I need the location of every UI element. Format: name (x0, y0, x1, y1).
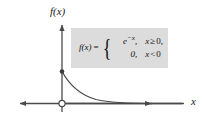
curve-start-filled-dot (60, 69, 65, 74)
piecewise-exponential-figure: f(x) x f(x) = { e−x, x≥0, 0, x<0 (0, 0, 205, 130)
formula-function-name: f(x) (79, 43, 92, 53)
formula-cases: e−x, x≥0, 0, x<0 (115, 37, 163, 60)
case-1-condition: x≥0, (145, 37, 163, 47)
origin-open-circle (59, 100, 65, 106)
x-axis-label: x (191, 96, 196, 107)
formula-case-2: 0, x<0 (115, 50, 163, 60)
formula-equals-sign: = (94, 43, 99, 53)
case-2-value: 0, (115, 50, 137, 60)
case-2-condition: x<0 (145, 50, 161, 60)
exponential-decay-curve (62, 72, 152, 104)
left-curly-brace-icon: { (103, 37, 112, 59)
y-axis-label: f(x) (50, 6, 65, 17)
case-1-exponent: −x (127, 34, 135, 42)
piecewise-formula: f(x) = { e−x, x≥0, 0, x<0 (76, 37, 163, 60)
formula-callout-box: f(x) = { e−x, x≥0, 0, x<0 (71, 28, 168, 68)
formula-case-1: e−x, x≥0, (115, 37, 163, 47)
case-1-value: e−x, (115, 37, 137, 47)
